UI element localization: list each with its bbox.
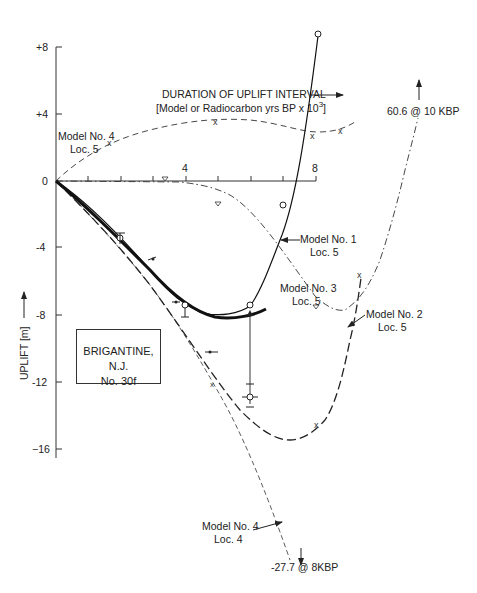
svg-text:Loc. 5: Loc. 5: [292, 295, 321, 307]
triangle-marker: [162, 177, 168, 181]
y-tick-label: +4: [36, 108, 48, 120]
x-tick-label: 4: [182, 162, 188, 174]
open-circle-cross-marker: [247, 394, 253, 400]
svg-text:UPLIFT [m]: UPLIFT [m]: [18, 326, 30, 380]
svg-text:Loc. 5: Loc. 5: [378, 321, 407, 333]
series-model2-loc5: [56, 181, 361, 440]
y-tick-label: -4: [36, 241, 45, 253]
annotation-top: 60.6 @ 10 KBP: [387, 105, 460, 117]
station-label-box: BRIGANTINE, N.J. No. 30f: [76, 329, 161, 384]
y-tick-label: 0: [42, 175, 48, 187]
uplift-chart: +8 +4 0 -4 -8 -12 −16 UPLIFT [m] 4 8 DUR…: [0, 0, 477, 593]
series-model4-loc5: [56, 119, 355, 181]
y-tick-label: -12: [32, 376, 47, 388]
label-model2-loc5: Model No. 2: [366, 308, 423, 320]
svg-text:Loc. 5: Loc. 5: [70, 143, 99, 155]
x-axis-title: DURATION OF UPLIFT INTERVAL [Model or Ra…: [156, 88, 343, 114]
station-name: BRIGANTINE, N.J.: [77, 344, 160, 374]
x-marker: x: [338, 126, 343, 136]
open-circle-marker: [280, 202, 286, 208]
svg-text:[Model or Radiocarbon yrs BP x: [Model or Radiocarbon yrs BP x 103]: [156, 100, 326, 114]
label-model1-loc5: Model No. 1: [300, 233, 357, 245]
x-axis: 4 8: [56, 162, 318, 181]
y-tick-label: -8: [36, 309, 45, 321]
series-observed-heavy: [56, 181, 266, 318]
x-marker: x: [314, 420, 319, 430]
x-marker: x: [357, 270, 362, 280]
x-marker: x: [213, 117, 218, 127]
annotation-bottom: -27.7 @ 8KBP: [271, 561, 338, 573]
label-model3-loc5: Model No. 3: [280, 282, 337, 294]
open-circle-marker: [315, 31, 321, 37]
open-circle-marker: [247, 302, 253, 308]
series-model1-loc5: [56, 36, 318, 315]
x-tick-label: 8: [312, 162, 318, 174]
x-marker: x: [310, 131, 315, 141]
svg-text:Loc. 4: Loc. 4: [214, 533, 243, 545]
svg-text:Loc. 5: Loc. 5: [310, 246, 339, 258]
y-tick-label: −16: [32, 443, 50, 455]
y-axis-title: UPLIFT [m]: [18, 292, 30, 380]
station-number: No. 30f: [77, 374, 160, 389]
svg-text:DURATION OF UPLIFT INTERVAL: DURATION OF UPLIFT INTERVAL: [162, 88, 326, 100]
triangle-marker: [215, 202, 221, 206]
label-model4-loc5: Model No. 4: [58, 130, 115, 142]
open-circle-marker: [182, 302, 188, 308]
y-axis: +8 +4 0 -4 -8 -12 −16 UPLIFT [m]: [18, 41, 62, 458]
y-tick-label: +8: [36, 41, 48, 53]
label-model4-loc4: Model No. 4: [202, 520, 259, 532]
x-marker: x: [210, 380, 214, 389]
